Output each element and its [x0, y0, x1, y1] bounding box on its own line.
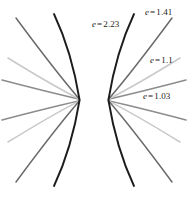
curve-group-e-1-1-left: [8, 58, 80, 142]
eccentricity-label-1-41: e=1.41: [145, 8, 172, 17]
curve-e-1-1-left-upper: [8, 58, 80, 99]
curve-group-e-2-23-right: [109, 14, 135, 186]
eccentricity-value: 2.23: [103, 19, 119, 29]
curve-e-1-03-left-upper: [2, 80, 80, 99]
curve-group-e-2-23-left: [54, 14, 80, 186]
conic-figure: e=2.23 e=1.41 e=1.1 e=1.03: [0, 0, 189, 199]
curve-e-1-03-right-lower: [109, 101, 187, 120]
eccentricity-label-1-03: e=1.03: [143, 92, 170, 101]
curve-group-e-1-41-left: [16, 18, 80, 182]
eccentricity-value: 1.1: [161, 55, 173, 65]
curve-e-1-1-left-lower: [8, 101, 80, 142]
eccentricity-value: 1.41: [156, 7, 172, 17]
curve-e-1-03-left-lower: [2, 101, 80, 120]
eccentricity-label-2-23: e=2.23: [92, 20, 119, 29]
eccentricity-label-1-1: e=1.1: [150, 56, 173, 65]
eccentricity-value: 1.03: [154, 91, 170, 101]
curve-e-1-1-right-lower: [109, 101, 181, 142]
